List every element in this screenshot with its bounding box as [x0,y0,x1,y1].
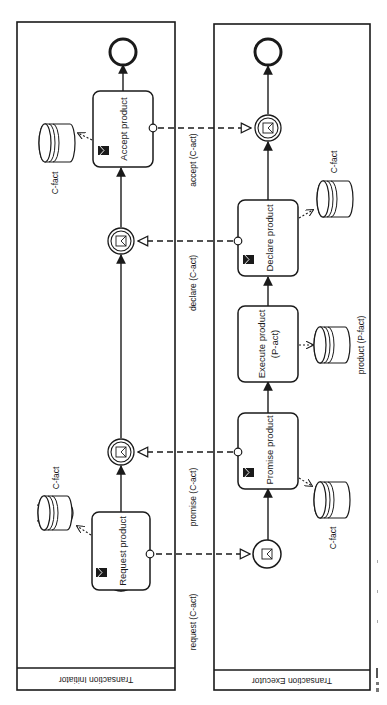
send-envelope-icon [243,254,254,265]
send-envelope-icon [243,467,254,478]
bpmn-diagram: Transaction Initiator Transaction Execut… [0,0,387,705]
message-flow-label-request: request (C-act) [188,593,198,650]
cropped-caption-fragment [372,420,384,700]
task-promise-product[interactable]: Promise product [234,413,298,489]
message-flow-label-promise: promise (C-act) [188,468,198,527]
database-icon [38,496,72,530]
pool-label-initiator: Transaction Initiator [59,675,133,685]
envelope-icon [262,549,272,559]
database-icon [314,482,350,518]
boundary-message-port [146,550,154,558]
database-icon [314,327,350,363]
task-label: Declare product [264,204,275,271]
task-label: Promise product [264,415,275,485]
message-catch-event-declare[interactable] [108,228,134,254]
data-store-label: C-fact [50,171,60,194]
data-store-label: product (P-fact) [356,316,366,375]
task-declare-product[interactable]: Declare product [234,200,298,276]
message-start-event-request[interactable] [253,540,281,568]
boundary-message-port [149,124,157,132]
task-execute-product[interactable]: Execute product (P-act) [238,306,298,382]
envelope-icon [263,123,273,133]
send-envelope-icon [96,567,107,578]
message-flow-label-accept: accept (C-act) [188,133,198,187]
end-event[interactable] [110,39,136,65]
envelope-icon [116,236,126,246]
envelope-icon [116,447,126,457]
task-request-product[interactable]: Request product [92,512,154,590]
data-store-label: C-fact [328,526,338,549]
task-label: Request product [117,516,128,586]
caption-marks [372,420,384,700]
message-flow-label-declare: declare (C-act) [188,255,198,311]
task-accept-product[interactable]: Accept product [93,91,157,167]
send-envelope-icon [98,145,109,156]
boundary-message-port [234,448,242,456]
end-event[interactable] [255,39,281,65]
data-store-label: C-fact [51,466,61,489]
database-icon [317,181,353,217]
task-label-line2: (P-act) [269,330,280,359]
data-store-label: C-fact [329,150,339,173]
task-label-line1: Execute product [256,309,267,378]
message-catch-event-promise[interactable] [108,439,134,465]
database-icon [39,124,75,162]
task-label: Accept product [118,97,129,161]
pool-label-executor: Transaction Executor [252,676,332,686]
message-catch-event-accept[interactable] [255,115,281,141]
boundary-message-port [234,237,242,245]
